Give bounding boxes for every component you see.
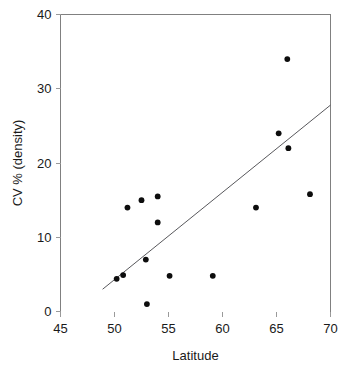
data-point — [253, 205, 259, 211]
x-tick-label: 60 — [215, 321, 229, 336]
x-tick-label: 70 — [323, 321, 337, 336]
y-tick-label: 30 — [37, 81, 51, 96]
data-point — [276, 130, 282, 136]
data-point — [210, 273, 216, 279]
y-axis-ticks: 010203040 — [37, 7, 60, 319]
x-tick-label: 65 — [269, 321, 283, 336]
y-tick-label: 10 — [37, 230, 51, 245]
y-axis-title: CV % (density) — [10, 120, 25, 207]
y-tick-label: 20 — [37, 156, 51, 171]
data-point — [125, 205, 131, 211]
data-point — [155, 220, 161, 226]
data-point — [120, 272, 126, 278]
scatter-chart: 455055606570 010203040 Latitude CV % (de… — [0, 0, 344, 366]
x-tick-label: 55 — [161, 321, 175, 336]
data-point — [114, 276, 120, 282]
x-axis-ticks: 455055606570 — [53, 312, 337, 336]
data-point — [139, 197, 145, 203]
data-point — [167, 273, 173, 279]
data-point — [143, 257, 149, 263]
chart-canvas: 455055606570 010203040 Latitude CV % (de… — [0, 0, 344, 366]
regression-line — [103, 105, 331, 289]
data-point — [155, 194, 161, 200]
trend-line-group — [103, 105, 331, 289]
data-point — [307, 191, 313, 197]
data-point — [285, 145, 291, 151]
x-tick-label: 50 — [107, 321, 121, 336]
y-tick-label: 40 — [37, 7, 51, 22]
x-axis-title: Latitude — [172, 348, 218, 363]
x-tick-label: 45 — [53, 321, 67, 336]
data-points-group — [114, 56, 313, 307]
data-point — [144, 301, 150, 307]
data-point — [284, 56, 290, 62]
y-tick-label: 0 — [44, 304, 51, 319]
